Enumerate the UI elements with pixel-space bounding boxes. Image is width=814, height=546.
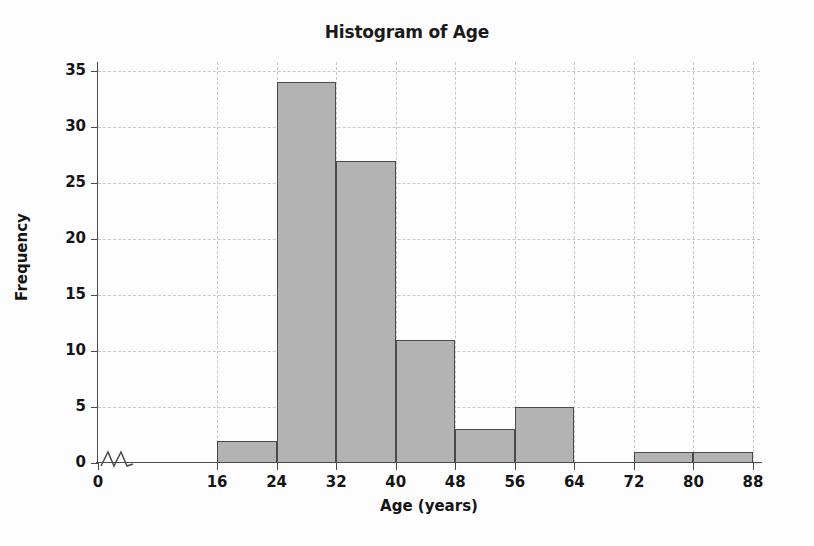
y-tick-mark (91, 127, 98, 128)
x-tick-label: 88 (730, 473, 776, 491)
plot-area (98, 62, 760, 463)
gridline-horizontal (98, 239, 760, 240)
y-tick-label: 15 (46, 285, 86, 303)
x-tick-mark (98, 463, 99, 470)
x-tick-label: 40 (373, 473, 419, 491)
y-tick-mark (91, 463, 98, 464)
gridline-vertical (634, 62, 635, 463)
x-tick-label: 72 (611, 473, 657, 491)
gridline-horizontal (98, 295, 760, 296)
gridline-horizontal (98, 127, 760, 128)
chart-title: Histogram of Age (0, 22, 814, 42)
x-tick-mark (217, 463, 218, 470)
y-tick-label: 20 (46, 229, 86, 247)
gridline-vertical (515, 62, 516, 463)
histogram-bar (455, 429, 515, 463)
histogram-figure: Histogram of Age 016243240485664728088 0… (0, 0, 814, 546)
x-tick-label: 24 (254, 473, 300, 491)
y-axis-label: Frequency (13, 197, 31, 317)
y-tick-label: 5 (46, 397, 86, 415)
x-tick-label: 56 (492, 473, 538, 491)
gridline-horizontal (98, 71, 760, 72)
x-tick-label: 0 (75, 473, 121, 491)
y-tick-mark (91, 351, 98, 352)
y-tick-mark (91, 239, 98, 240)
y-tick-mark (91, 71, 98, 72)
x-tick-label: 80 (670, 473, 716, 491)
x-tick-mark (634, 463, 635, 470)
y-tick-label: 10 (46, 341, 86, 359)
histogram-bar (396, 340, 456, 463)
gridline-vertical (455, 62, 456, 463)
y-axis-line (97, 62, 98, 464)
gridline-vertical (693, 62, 694, 463)
x-tick-mark (515, 463, 516, 470)
histogram-bar (515, 407, 575, 463)
x-tick-mark (693, 463, 694, 470)
x-axis-line (96, 462, 762, 463)
gridline-horizontal (98, 183, 760, 184)
gridline-vertical (217, 62, 218, 463)
x-tick-mark (336, 463, 337, 470)
histogram-bar (217, 441, 277, 463)
x-tick-mark (396, 463, 397, 470)
histogram-bar (336, 161, 396, 463)
gridline-vertical (753, 62, 754, 463)
x-tick-label: 16 (194, 473, 240, 491)
histogram-bar (277, 82, 337, 463)
y-tick-mark (91, 295, 98, 296)
x-tick-mark (455, 463, 456, 470)
x-tick-mark (277, 463, 278, 470)
y-tick-label: 35 (46, 61, 86, 79)
x-tick-mark (574, 463, 575, 470)
x-axis-label: Age (years) (98, 497, 760, 515)
gridline-vertical (574, 62, 575, 463)
y-tick-label: 25 (46, 173, 86, 191)
x-tick-label: 48 (432, 473, 478, 491)
y-tick-mark (91, 183, 98, 184)
x-tick-label: 32 (313, 473, 359, 491)
y-tick-label: 0 (46, 453, 86, 471)
y-tick-label: 30 (46, 117, 86, 135)
axis-break-icon (100, 446, 134, 470)
y-tick-mark (91, 407, 98, 408)
x-tick-mark (753, 463, 754, 470)
x-tick-label: 64 (551, 473, 597, 491)
